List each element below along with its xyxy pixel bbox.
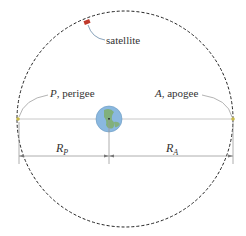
arrowhead-icon — [19, 155, 24, 158]
apogee-label: A, apogee — [154, 87, 198, 99]
rp-sub: P — [62, 148, 68, 157]
perigee-label: P, perigee — [49, 87, 95, 99]
apogee-leader-line — [202, 95, 232, 117]
apogee-text: , apogee — [162, 87, 199, 99]
satellite-icon — [83, 19, 90, 25]
ra-sub: A — [172, 148, 178, 157]
apogee-point — [231, 117, 235, 121]
perigee-point — [16, 117, 20, 121]
orbit-diagram: satellite P, perigee A, apogee RP RA — [0, 0, 246, 236]
arrowhead-icon — [109, 155, 114, 158]
perigee-text: , perigee — [57, 87, 95, 99]
satellite-label: satellite — [106, 34, 140, 46]
perigee-leader-line — [19, 95, 48, 117]
ra-label: RA — [165, 141, 178, 157]
satellite-leader-line — [88, 25, 105, 40]
arrowhead-icon — [104, 155, 109, 158]
rp-label: RP — [55, 141, 68, 157]
arrowhead-icon — [228, 155, 233, 158]
